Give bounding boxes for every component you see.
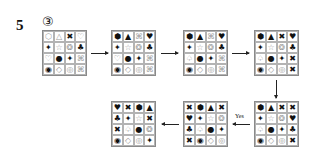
arrow-right-2 xyxy=(161,53,178,54)
grid-7: ♥✖⬢▲♣✦☆✖✖♤●❂◉◇◎✦ xyxy=(111,101,156,147)
grid-cell-symbol: ♤ xyxy=(255,53,266,64)
grid-cell-symbol: ▲ xyxy=(206,102,217,113)
grid-cell-symbol: ♥ xyxy=(144,31,155,42)
grid-cell-symbol: ❂ xyxy=(65,42,76,53)
grid-cell-symbol: ▲ xyxy=(123,31,134,42)
grid-2: ⬢▲⌘♥✦☆❂♣♡●✦⌘◉◇◎⌘ xyxy=(111,30,156,76)
grid-cell-symbol: ◇ xyxy=(123,135,134,146)
grid-cell-symbol: ✖ xyxy=(65,31,76,42)
grid-cell-symbol: ✦ xyxy=(255,113,266,124)
grid-cell-symbol: ♥ xyxy=(216,31,227,42)
grid-cell-symbol: ✦ xyxy=(277,53,288,64)
grid-cell-symbol: ✦ xyxy=(206,53,217,64)
grid-cell-symbol: ◇ xyxy=(266,64,277,75)
grid-cell-symbol: ♣ xyxy=(287,42,298,53)
grid-cell-symbol: ◇ xyxy=(54,64,65,75)
option-label: ③ xyxy=(42,14,54,29)
grid-cell-symbol: ❂ xyxy=(277,42,288,53)
grid-cell-symbol: ♣ xyxy=(287,124,298,135)
grid-cell-symbol: ☆ xyxy=(206,113,217,124)
grid-cell-symbol: ◎ xyxy=(134,135,145,146)
grid-cell-symbol: ♣ xyxy=(144,42,155,53)
grid-cell-symbol: ✦ xyxy=(65,53,76,64)
grid-cell-symbol: ◎ xyxy=(277,135,288,146)
grid-cell-symbol: ✦ xyxy=(255,42,266,53)
grid-cell-symbol: ♣ xyxy=(184,124,195,135)
grid-cell-symbol: ◉ xyxy=(112,64,123,75)
grid-cell-symbol: ⬡ xyxy=(43,31,54,42)
grid-cell-symbol: ◇ xyxy=(266,135,277,146)
grid-6: ✖⬢▲✖♥✦☆❂♣♤●✦✖◉◇◎ xyxy=(183,101,228,147)
grid-cell-symbol: ♡ xyxy=(43,53,54,64)
grid-cell-symbol: ✦ xyxy=(216,124,227,135)
grid-cell-symbol: ● xyxy=(195,53,206,64)
grid-cell-symbol: ⌘ xyxy=(75,53,86,64)
grid-cell-symbol: ✦ xyxy=(112,42,123,53)
grid-cell-symbol: ▲ xyxy=(144,102,155,113)
grid-cell-symbol: ✖ xyxy=(184,102,195,113)
grid-cell-symbol: ♥ xyxy=(112,102,123,113)
grid-cell-symbol: ◇ xyxy=(206,135,217,146)
grid-cell-symbol: ✖ xyxy=(123,102,134,113)
grid-cell-symbol: ❂ xyxy=(216,113,227,124)
grid-cell-symbol: ♤ xyxy=(195,124,206,135)
grid-cell-symbol: ⬢ xyxy=(184,31,195,42)
grid-cell-symbol: ♣ xyxy=(216,42,227,53)
question-number: 5 xyxy=(16,17,24,34)
grid-3: ⬢▲⌘♥✦☆❂♣♤●✦⌘◉◇◎⌘ xyxy=(183,30,228,76)
arrow-down xyxy=(276,80,277,98)
grid-cell-symbol: ⌘ xyxy=(216,64,227,75)
grid-cell-symbol: ● xyxy=(266,53,277,64)
grid-cell-symbol: ☆ xyxy=(195,42,206,53)
grid-cell-symbol: ✖ xyxy=(287,53,298,64)
grid-cell-symbol: ❂ xyxy=(144,124,155,135)
grid-cell-symbol: ● xyxy=(134,124,145,135)
grid-cell-symbol: ● xyxy=(54,53,65,64)
grid-cell-symbol: ♤ xyxy=(255,124,266,135)
grid-cell-symbol: ● xyxy=(206,124,217,135)
grid-cell-symbol: ▲ xyxy=(266,31,277,42)
grid-cell-symbol: ✦ xyxy=(184,42,195,53)
grid-cell-symbol: ✖ xyxy=(287,64,298,75)
grid-cell-symbol: ☆ xyxy=(54,42,65,53)
grid-cell-symbol: ✖ xyxy=(287,102,298,113)
grid-cell-symbol: △ xyxy=(54,31,65,42)
grid-cell-symbol: ▲ xyxy=(195,31,206,42)
arrow-right-3 xyxy=(232,53,249,54)
grid-5: ⬢▲✖✖✦☆❂♥♤●✦♣◉◇◎✖ xyxy=(254,101,299,147)
grid-cell-symbol: ◉ xyxy=(184,64,195,75)
grid-cell-symbol: ✖ xyxy=(277,102,288,113)
grid-cell-symbol: ✖ xyxy=(112,124,123,135)
grid-cell-symbol: ❂ xyxy=(277,113,288,124)
grid-cell-symbol: ⬢ xyxy=(112,31,123,42)
grid-cell-symbol: ♤ xyxy=(123,124,134,135)
grid-cell-symbol: ♣ xyxy=(112,113,123,124)
grid-cell-symbol: ✖ xyxy=(287,135,298,146)
grid-cell-symbol: ✦ xyxy=(195,113,206,124)
grid-cell-symbol: ♣ xyxy=(75,42,86,53)
grid-cell-symbol: ◎ xyxy=(134,64,145,75)
grid-cell-symbol: ⌘ xyxy=(144,53,155,64)
grid-cell-symbol: ⬢ xyxy=(134,102,145,113)
grid-cell-symbol: ♡ xyxy=(75,31,86,42)
grid-cell-symbol: ● xyxy=(123,53,134,64)
grid-cell-symbol: ✖ xyxy=(184,135,195,146)
grid-cell-symbol: ◎ xyxy=(65,64,76,75)
grid-cell-symbol: ◉ xyxy=(112,135,123,146)
grid-cell-symbol: ▲ xyxy=(266,102,277,113)
arrow-right-1 xyxy=(91,53,108,54)
grid-cell-symbol: ✦ xyxy=(134,53,145,64)
grid-cell-symbol: ✦ xyxy=(43,42,54,53)
grid-cell-symbol: ♤ xyxy=(184,53,195,64)
grid-cell-symbol: ❂ xyxy=(206,42,217,53)
grid-cell-symbol: ⌘ xyxy=(144,64,155,75)
grid-cell-symbol: ⌘ xyxy=(206,31,217,42)
grid-cell-symbol: ● xyxy=(266,124,277,135)
grid-cell-symbol: ☆ xyxy=(266,42,277,53)
grid-4: ⬢▲✖♥✦☆❂♣♤●✦✖◉◇◎✖ xyxy=(254,30,299,76)
grid-cell-symbol: ◎ xyxy=(206,64,217,75)
grid-cell-symbol: ✖ xyxy=(277,31,288,42)
grid-cell-symbol: ♥ xyxy=(287,113,298,124)
grid-cell-symbol: ✦ xyxy=(144,135,155,146)
grid-cell-symbol: ⬢ xyxy=(255,31,266,42)
